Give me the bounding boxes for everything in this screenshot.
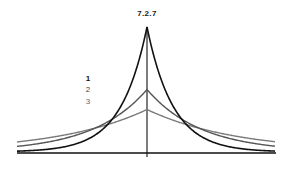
- legend-label-2: 2: [84, 85, 92, 94]
- legend-label-3: 3: [84, 97, 92, 106]
- curve-1: [17, 27, 275, 151]
- curve-2: [17, 90, 275, 147]
- curve-3: [17, 110, 275, 142]
- plot-area: [0, 0, 287, 176]
- legend-label-1: 1: [84, 74, 92, 83]
- peak-curves-figure: 7.2.7 1 2 3: [0, 0, 287, 176]
- figure-title: 7.2.7: [127, 9, 167, 18]
